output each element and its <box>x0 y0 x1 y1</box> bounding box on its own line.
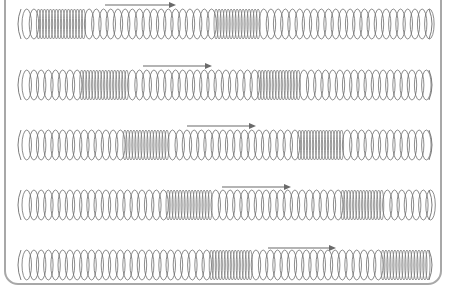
spring-row-4 <box>18 184 435 220</box>
direction-arrow-icon <box>187 123 256 129</box>
direction-arrow-icon <box>105 2 176 8</box>
wave-diagram <box>0 0 449 305</box>
spring-coil <box>18 250 432 280</box>
spring-coil <box>18 130 432 160</box>
direction-arrow-icon <box>222 184 291 190</box>
spring-coil <box>18 70 432 100</box>
spring-row-5 <box>18 245 432 280</box>
spring-coil <box>18 190 435 220</box>
spring-row-1 <box>18 2 434 39</box>
direction-arrow-icon <box>143 63 212 69</box>
spring-row-3 <box>18 123 432 160</box>
spring-row-2 <box>18 63 432 100</box>
spring-coil <box>18 9 434 39</box>
